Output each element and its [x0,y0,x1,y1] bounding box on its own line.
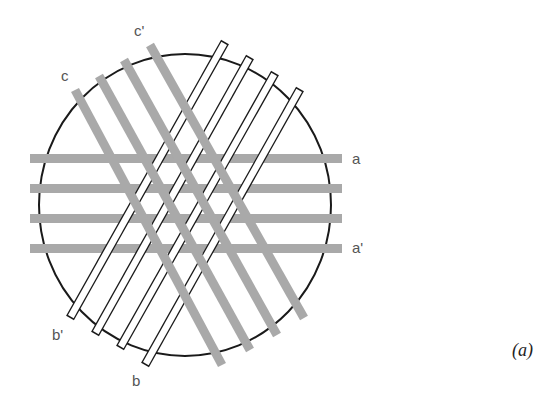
label-b: b [132,372,140,389]
label-c: c [61,67,69,84]
bar-a-1 [30,154,342,163]
label-b-prime: b' [52,326,63,343]
label-a: a [352,150,361,167]
bar-b-1-fill [71,43,224,316]
bar-a-2 [30,184,342,193]
bar-a-4 [30,244,342,253]
bar-b-2-fill [96,58,249,332]
label-c-prime: c' [134,22,145,39]
figure-caption: (a) [512,340,533,361]
label-a-prime: a' [352,239,363,256]
diagram-canvas: c c' a a' b' b (a) [0,0,556,416]
bar-a-3 [30,214,342,223]
